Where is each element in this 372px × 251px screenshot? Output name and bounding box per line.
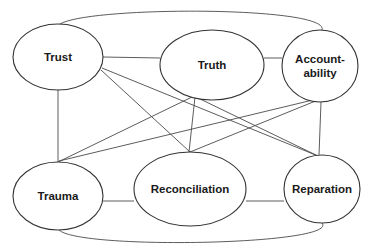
edge-truth-reconciliation (189, 97, 195, 152)
edge-trust-truth (103, 57, 160, 58)
node-truth: Truth (160, 30, 264, 100)
node-accountability: Account-ability (282, 30, 358, 102)
node-label: Trust (44, 51, 72, 63)
node-trauma: Trauma (13, 162, 103, 230)
node-trust: Trust (13, 24, 103, 90)
node-label: Account- (295, 53, 345, 65)
edge-truth-trauma (58, 97, 192, 162)
node-label: Reparation (292, 183, 352, 195)
node-reconciliation: Reconciliation (134, 152, 246, 226)
node-label: Truth (198, 59, 227, 71)
node-label: Reconciliation (151, 183, 230, 195)
node-label: ability (303, 67, 337, 79)
edge-accountability-reparation (319, 102, 321, 155)
edge-trust-accountability (60, 11, 322, 30)
edge-truth-reparation (198, 98, 318, 156)
relationship-diagram: TrustTruthAccount-abilityTraumaReconcili… (0, 0, 372, 251)
edge-accountability-reconciliation (190, 100, 318, 152)
node-layer: TrustTruthAccount-abilityTraumaReconcili… (13, 24, 360, 230)
node-reparation: Reparation (284, 155, 360, 223)
node-label: Trauma (38, 190, 80, 202)
node-ellipse (282, 30, 358, 102)
